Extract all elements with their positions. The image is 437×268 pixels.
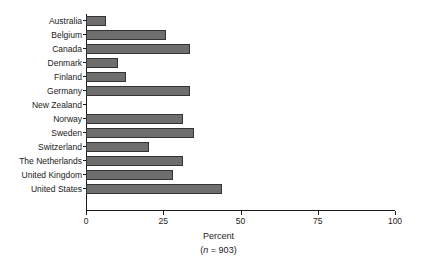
category-label: United States [0,182,82,196]
bar-row [86,98,395,112]
plot-area [86,14,395,210]
bar-row [86,182,395,196]
x-axis-tick-mark [86,211,87,215]
bar [86,16,106,26]
category-label: New Zealand [0,98,82,112]
bar [86,156,183,166]
bar-row [86,70,395,84]
bar [86,128,194,138]
bar [86,142,149,152]
category-label: Sweden [0,126,82,140]
bar-rows [86,14,395,210]
bar [86,114,183,124]
bar-row [86,42,395,56]
bar-row [86,14,395,28]
y-axis-tick [83,104,86,105]
bar [86,72,126,82]
x-axis-tick-label: 75 [298,216,338,227]
bar [86,184,222,194]
x-axis-tick-mark [241,211,242,215]
bar-row [86,140,395,154]
bar-row [86,112,395,126]
x-axis-tick-mark [163,211,164,215]
bar-row [86,168,395,182]
x-axis-tick-label: 0 [66,216,106,227]
x-axis-ticks: 0255075100 [86,211,395,231]
x-axis-tick-mark [318,211,319,215]
x-axis-tick-label: 50 [221,216,261,227]
bar-row [86,28,395,42]
category-label: Norway [0,112,82,126]
bar-row [86,154,395,168]
category-label: Finland [0,70,82,84]
bar-row [86,84,395,98]
x-axis-title: Percent [0,231,437,241]
category-label: United Kingdom [0,168,82,182]
bar [86,44,190,54]
bar-row [86,126,395,140]
x-axis-tick-label: 100 [375,216,415,227]
category-label: The Netherlands [0,154,82,168]
category-label: Switzerland [0,140,82,154]
x-axis-tick-mark [395,211,396,215]
category-label: Belgium [0,28,82,42]
bar-row [86,56,395,70]
category-label: Canada [0,42,82,56]
category-label: Germany [0,84,82,98]
x-axis-tick-label: 25 [143,216,183,227]
x-axis-sample-size: (n = 903) [0,245,437,255]
category-label: Australia [0,14,82,28]
bar [86,58,118,68]
bar [86,30,166,40]
bar-chart-figure: Australia Belgium Canada Denmark Finland… [0,0,437,268]
bar [86,170,173,180]
sample-size-value: = 903) [208,245,236,255]
bar [86,86,190,96]
category-axis-labels: Australia Belgium Canada Denmark Finland… [0,14,82,210]
category-label: Denmark [0,56,82,70]
